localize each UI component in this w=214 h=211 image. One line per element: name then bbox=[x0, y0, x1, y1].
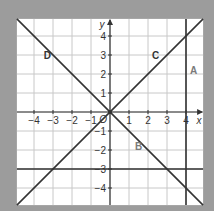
line-label-a: A bbox=[190, 65, 197, 76]
y-tick-label: −4 bbox=[95, 183, 107, 194]
line-label-d: D bbox=[44, 50, 51, 61]
origin-point bbox=[108, 110, 112, 114]
y-tick-label: −3 bbox=[95, 164, 107, 175]
y-tick-label: 3 bbox=[100, 50, 106, 61]
x-tick-label: −3 bbox=[47, 115, 59, 126]
x-tick-label: 2 bbox=[145, 115, 151, 126]
x-tick-label: −1 bbox=[85, 115, 97, 126]
x-tick-label: −2 bbox=[66, 115, 78, 126]
y-tick-label: 2 bbox=[100, 69, 106, 80]
y-tick-label: 4 bbox=[100, 31, 106, 42]
x-tick-label: 1 bbox=[126, 115, 132, 126]
x-axis-label: x bbox=[196, 115, 203, 126]
origin-label: O bbox=[99, 114, 107, 125]
y-tick-label: −1 bbox=[95, 126, 107, 137]
line-label-c: C bbox=[152, 50, 159, 61]
y-axis-label: y bbox=[99, 19, 106, 30]
coordinate-plot: −4−3−2−11234−4−3−2−11234Oxy ABCD bbox=[0, 0, 214, 211]
line-label-b: B bbox=[135, 141, 142, 152]
x-tick-label: 4 bbox=[183, 115, 189, 126]
x-tick-label: 3 bbox=[164, 115, 170, 126]
x-tick-label: −4 bbox=[28, 115, 40, 126]
y-tick-label: 1 bbox=[100, 88, 106, 99]
y-tick-label: −2 bbox=[95, 145, 107, 156]
